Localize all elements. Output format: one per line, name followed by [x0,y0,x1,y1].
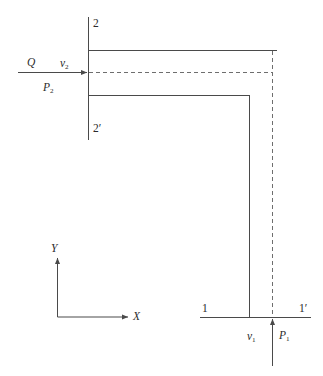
label-section-1: 1 [202,303,208,315]
label-outlet-pressure: P1 [279,330,290,343]
label-axis-y: Y [51,243,57,255]
pipe-bend-diagram: 2 2′ Q v2 P2 1 1′ v1 P1 Y X [0,0,323,376]
label-flow-rate: Q [27,57,35,69]
label-inlet-pressure: P2 [43,82,54,95]
label-inlet-velocity: v2 [60,58,69,71]
label-section-2: 2 [93,18,99,30]
coordinate-axes [58,258,129,317]
label-section-1-prime: 1′ [299,303,307,315]
diagram-canvas [0,0,323,376]
label-axis-x: X [133,311,140,323]
label-section-2-prime: 2′ [93,123,101,135]
label-outlet-velocity: v1 [247,331,256,344]
